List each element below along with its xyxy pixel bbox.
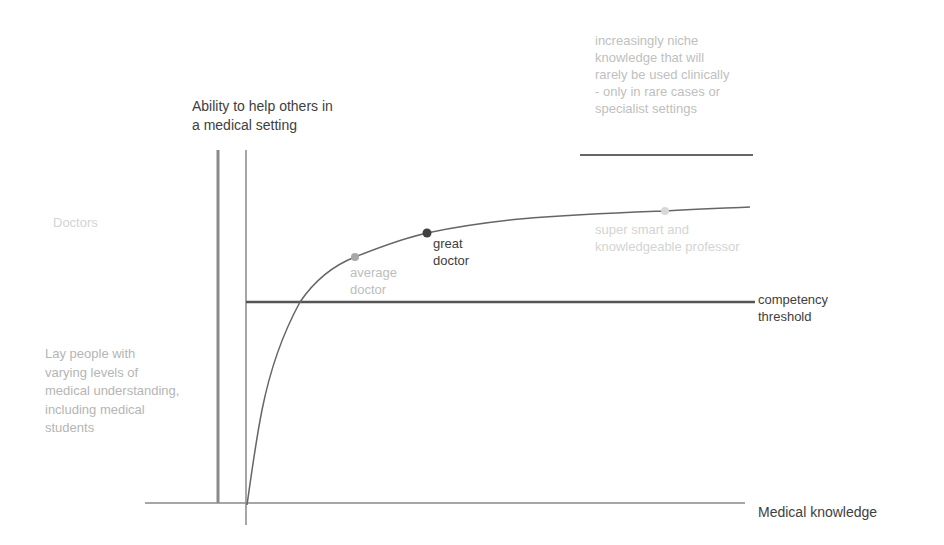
knowledge-ability-diagram: [0, 0, 944, 545]
great-doctor-point: [423, 229, 432, 238]
great-doctor-label: great doctor: [433, 235, 469, 269]
average-doctor-label: average doctor: [350, 264, 397, 298]
competency-threshold-label: competency threshold: [758, 291, 828, 325]
niche-knowledge-note: increasingly niche knowledge that will r…: [595, 32, 729, 117]
x-axis-label: Medical knowledge: [758, 504, 877, 521]
lay-people-label: Lay people with varying levels of medica…: [45, 345, 179, 438]
professor-point: [661, 207, 669, 215]
y-axis-label: Ability to help others in a medical sett…: [192, 97, 333, 135]
average-doctor-point: [351, 253, 359, 261]
professor-label: super smart and knowledgeable professor: [595, 221, 740, 255]
doctors-label: Doctors: [53, 214, 98, 231]
